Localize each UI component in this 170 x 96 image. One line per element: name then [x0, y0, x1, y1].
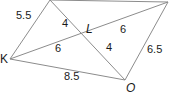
length-label-o-top-right: 6.5 [147, 43, 162, 55]
length-label-k-l: 6 [55, 42, 61, 54]
length-label-k-o: 8.5 [64, 70, 79, 82]
vertex-label-k: K [0, 52, 8, 66]
edge-top [50, 0, 168, 2]
length-label-top-left-k: 5.5 [16, 9, 31, 21]
vertex-label-o: O [126, 81, 135, 95]
length-label-l-top-right: 6 [120, 23, 126, 35]
quadrilateral-diagram: 5.5 4 4 6 6 8.5 6.5 K L O [0, 0, 170, 96]
edge-o-to-top-right [125, 2, 168, 80]
length-label-l-o: 4 [106, 41, 112, 53]
vertex-label-l: L [86, 22, 93, 36]
length-label-top-left-l: 4 [62, 17, 68, 29]
